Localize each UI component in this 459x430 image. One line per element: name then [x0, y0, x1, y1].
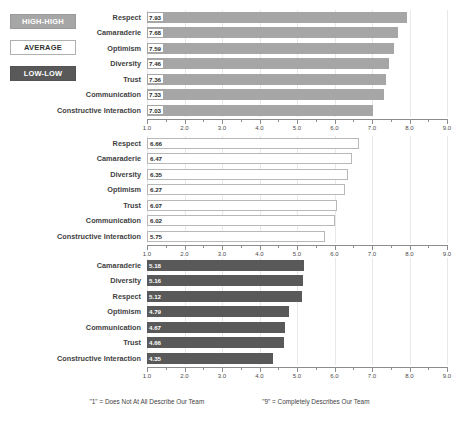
axis-tick-label: 7.0 [368, 125, 376, 131]
axis-minor-tick [166, 245, 167, 248]
bar-row: Optimism4.79 [0, 305, 459, 319]
axis-minor-tick [278, 245, 279, 248]
bar-area: 5.18 [147, 258, 447, 272]
category-label: Optimism [0, 307, 147, 316]
axis-tick [335, 119, 336, 124]
axis-tick-label: 3.0 [218, 373, 226, 379]
category-label: Camaraderie [0, 154, 147, 163]
category-label: Communication [0, 323, 147, 332]
chart-low-low: Camaraderie5.18Diversity5.16Respect5.12O… [0, 258, 459, 384]
bar-value-label: 6.27 [148, 186, 162, 193]
bar: 6.35 [147, 169, 348, 180]
bar-area: 7.03 [147, 103, 447, 117]
axis-tick-label: 4.0 [255, 125, 263, 131]
bar-area: 5.16 [147, 274, 447, 288]
axis-tick-label: 9.0 [443, 251, 451, 257]
axis-tick [410, 367, 411, 372]
axis-tick-label: 6.0 [330, 125, 338, 131]
bar-area: 4.67 [147, 320, 447, 334]
bar: 7.68 [147, 27, 398, 38]
axis-tick-label: 3.0 [218, 251, 226, 257]
axis-tick [447, 119, 448, 124]
bar-row: Camaraderie5.18 [0, 258, 459, 272]
bar-row: Respect6.66 [0, 136, 459, 150]
category-label: Respect [0, 139, 147, 148]
bar-rows: Respect6.66Camaraderie6.47Diversity6.35O… [0, 136, 459, 243]
bar-value-label: 5.75 [148, 233, 162, 240]
axis-tick [147, 245, 148, 250]
bar: 7.46 [147, 58, 389, 69]
category-label: Trust [0, 338, 147, 347]
axis-tick-label: 1.0 [143, 251, 151, 257]
scale-footnote-low: "1" = Does Not At All Describe Our Team [90, 398, 205, 405]
bar-row: Trust4.66 [0, 336, 459, 350]
bar-value-label: 4.79 [147, 308, 161, 315]
bar: 4.67 [147, 322, 285, 333]
bar-row: Diversity5.16 [0, 274, 459, 288]
bar-row: Respect5.12 [0, 289, 459, 303]
bar-row: Optimism7.59 [0, 41, 459, 55]
axis-minor-tick [166, 367, 167, 370]
scale-footnote: "1" = Does Not At All Describe Our Team … [0, 398, 459, 405]
category-label: Respect [0, 292, 147, 301]
bar-row: Communication7.33 [0, 88, 459, 102]
axis-tick-label: 9.0 [443, 373, 451, 379]
bar-value-label: 4.66 [147, 339, 161, 346]
axis-tick [185, 367, 186, 372]
axis-tick [335, 367, 336, 372]
axis-minor-tick [241, 119, 242, 122]
bar: 7.59 [147, 43, 394, 54]
axis-tick [185, 119, 186, 124]
axis-tick-label: 2.0 [180, 251, 188, 257]
bar-area: 5.12 [147, 289, 447, 303]
axis-minor-tick [353, 367, 354, 370]
axis-minor-tick [428, 367, 429, 370]
category-label: Constructive Interaction [0, 232, 147, 241]
category-label: Diversity [0, 59, 147, 68]
axis-tick [222, 245, 223, 250]
bar-area: 7.59 [147, 41, 447, 55]
bar-value-label: 7.46 [148, 60, 163, 68]
axis-minor-tick [241, 367, 242, 370]
axis-tick [260, 119, 261, 124]
bar-value-label: 4.67 [147, 324, 161, 331]
axis-minor-tick [391, 367, 392, 370]
bar: 4.79 [147, 306, 289, 317]
axis-minor-tick [391, 119, 392, 122]
axis-minor-tick [353, 245, 354, 248]
axis-minor-tick [278, 367, 279, 370]
bar: 5.18 [147, 260, 304, 271]
bar-row: Constructive Interaction5.75 [0, 229, 459, 243]
chart-high-high: Respect7.93Camaraderie7.68Optimism7.59Di… [0, 10, 459, 136]
bar-area: 6.27 [147, 183, 447, 197]
axis-tick [147, 119, 148, 124]
bar-value-label: 7.59 [148, 44, 163, 52]
axis-minor-tick [316, 367, 317, 370]
category-label: Diversity [0, 170, 147, 179]
bar-area: 5.75 [147, 229, 447, 243]
scale-footnote-high: "9" = Completely Describes Our Team [262, 398, 369, 405]
bar-row: Communication4.67 [0, 320, 459, 334]
bar: 7.33 [147, 89, 384, 100]
axis-tick [297, 119, 298, 124]
axis-tick [147, 367, 148, 372]
bar-value-label: 4.35 [147, 355, 161, 362]
bar-row: Constructive Interaction4.35 [0, 351, 459, 365]
axis-tick [260, 245, 261, 250]
category-label: Camaraderie [0, 261, 147, 270]
bar-area: 7.33 [147, 88, 447, 102]
axis-tick-label: 1.0 [143, 373, 151, 379]
bar-value-label: 5.12 [147, 293, 161, 300]
axis-tick-label: 7.0 [368, 251, 376, 257]
axis-tick-label: 2.0 [180, 125, 188, 131]
axis-minor-tick [203, 245, 204, 248]
bar-area: 6.07 [147, 198, 447, 212]
axis-minor-tick [241, 245, 242, 248]
axis-tick-label: 4.0 [255, 251, 263, 257]
bar-rows: Camaraderie5.18Diversity5.16Respect5.12O… [0, 258, 459, 365]
category-label: Camaraderie [0, 28, 147, 37]
axis-tick-label: 8.0 [405, 251, 413, 257]
bar-area: 4.66 [147, 336, 447, 350]
axis-minor-tick [391, 245, 392, 248]
axis-tick-label: 6.0 [330, 251, 338, 257]
